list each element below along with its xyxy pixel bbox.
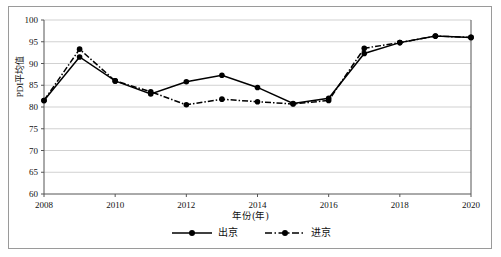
- svg-text:2014: 2014: [249, 200, 268, 210]
- legend-item-chujing: 出京: [171, 228, 238, 238]
- chart-legend: 出京 进京: [0, 228, 501, 238]
- legend-label-chujing: 出京: [218, 228, 238, 238]
- svg-text:60: 60: [29, 189, 39, 199]
- svg-text:85: 85: [29, 80, 39, 90]
- svg-text:90: 90: [29, 59, 39, 69]
- svg-text:2018: 2018: [391, 200, 410, 210]
- svg-text:100: 100: [25, 15, 39, 25]
- svg-text:2012: 2012: [177, 200, 195, 210]
- chart-root: PDI平均值 年份(年) 606570758085909510020082010…: [0, 0, 501, 257]
- svg-text:65: 65: [29, 167, 39, 177]
- svg-text:2008: 2008: [35, 200, 54, 210]
- svg-text:70: 70: [29, 146, 39, 156]
- svg-text:75: 75: [29, 124, 39, 134]
- svg-text:80: 80: [29, 102, 39, 112]
- svg-text:95: 95: [29, 37, 39, 47]
- legend-swatch-dashdot: [264, 228, 306, 238]
- legend-swatch-solid: [171, 228, 213, 238]
- svg-text:2016: 2016: [320, 200, 339, 210]
- svg-text:2010: 2010: [106, 200, 125, 210]
- legend-label-jingjing: 进京: [311, 228, 331, 238]
- svg-text:2020: 2020: [462, 200, 481, 210]
- chart-plot-area: 6065707580859095100200820102012201420162…: [0, 0, 501, 257]
- legend-item-jingjing: 进京: [264, 228, 331, 238]
